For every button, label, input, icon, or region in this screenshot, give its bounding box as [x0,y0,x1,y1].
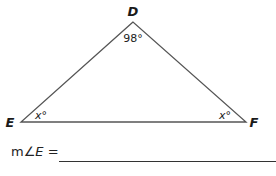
answer-blank-line[interactable] [59,161,276,162]
vertex-label-e: E [6,115,15,130]
angle-measure-prefix: m∠ [11,144,35,159]
angle-label-e: x° [34,109,47,122]
angle-measure-var: E [35,144,43,159]
question-prompt: m∠E = [11,144,59,164]
angle-label-f: x° [218,109,231,122]
angle-label-d: 98° [123,32,143,45]
vertex-label-d: D [128,4,139,19]
angle-measure-label: m∠E = [11,144,59,159]
angle-measure-suffix: = [44,144,59,159]
vertex-label-f: F [250,115,259,130]
